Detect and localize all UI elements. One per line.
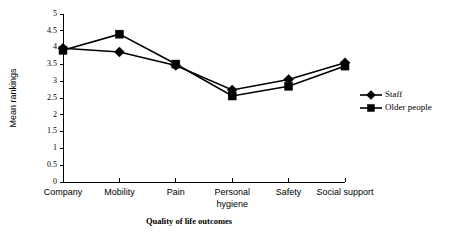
y-tick-label: 3.5 xyxy=(47,59,57,68)
legend-marker-square xyxy=(368,105,375,112)
legend-label: Older people xyxy=(385,102,432,112)
data-point-square xyxy=(285,82,293,90)
data-point-diamond xyxy=(114,47,124,57)
line-chart: 00.511.522.533.544.55 CompanyMobilityPai… xyxy=(0,0,452,240)
x-tick-label: Pain xyxy=(167,187,185,197)
data-series-group xyxy=(58,30,350,100)
chart-container: 00.511.522.533.544.55 CompanyMobilityPai… xyxy=(0,0,452,240)
series-older-people xyxy=(59,30,349,100)
y-tick-label: 5 xyxy=(53,9,57,18)
x-tick-label: Safety xyxy=(276,187,302,197)
legend-item-older-people: Older people xyxy=(360,102,432,112)
legend-marker-diamond xyxy=(367,91,376,100)
data-point-square xyxy=(341,62,349,70)
legend-label: Staff xyxy=(385,89,402,99)
x-axis-title: Quality of life outcomes xyxy=(146,216,233,226)
y-tick-label: 0 xyxy=(53,177,57,186)
x-tick-label: Social support xyxy=(316,187,374,197)
x-axis: CompanyMobilityPainPersonalhygieneSafety… xyxy=(44,178,374,209)
y-axis-title: Mean rankings xyxy=(8,68,18,128)
y-tick-label: 2.5 xyxy=(47,93,57,102)
y-tick-label: 0.5 xyxy=(47,160,57,169)
y-tick-label: 1.5 xyxy=(47,126,57,135)
series-line xyxy=(63,48,345,90)
legend-item-staff: Staff xyxy=(360,89,402,99)
y-tick-label: 4 xyxy=(53,42,57,51)
y-tick-label: 1 xyxy=(53,143,57,152)
y-tick-label: 4.5 xyxy=(47,26,57,35)
y-tick-label: 3 xyxy=(53,76,57,85)
axis-titles: Quality of life outcomesMean rankings xyxy=(8,68,233,226)
series-line xyxy=(63,34,345,96)
data-point-square xyxy=(115,30,123,38)
x-tick-label: Personalhygiene xyxy=(214,187,250,209)
x-tick-label: Mobility xyxy=(104,187,135,197)
series-staff xyxy=(58,43,350,95)
data-point-square xyxy=(172,60,180,68)
data-point-square xyxy=(228,92,236,100)
x-tick-label: Company xyxy=(44,187,83,197)
y-tick-label: 2 xyxy=(53,110,57,119)
data-point-square xyxy=(59,46,67,54)
chart-legend: StaffOlder people xyxy=(360,89,432,112)
y-axis: 00.511.522.533.544.55 xyxy=(47,9,63,186)
